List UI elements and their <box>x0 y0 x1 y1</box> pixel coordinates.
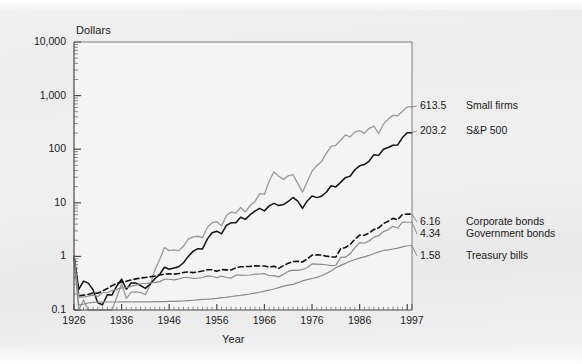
x-tick-label: 1946 <box>146 314 192 326</box>
x-tick-label: 1997 <box>389 314 435 326</box>
x-tick-label: 1936 <box>99 314 145 326</box>
plot-background <box>74 42 412 310</box>
y-tick-label: 100 <box>10 142 66 154</box>
chart-canvas <box>0 0 582 364</box>
annotation-label-government-bonds: Government bonds <box>466 227 555 239</box>
annotation-label-small-firms: Small firms <box>466 99 518 111</box>
annotation-leader-lines <box>412 106 417 256</box>
annotation-value-small-firms: 613.5 <box>420 99 460 111</box>
annotation-value-s-p-500: 203.2 <box>420 124 460 136</box>
annotation-label-corporate-bonds: Corporate bonds <box>466 215 544 227</box>
x-tick-label: 1956 <box>194 314 240 326</box>
y-tick-label: 1,000 <box>10 89 66 101</box>
annotation-value-government-bonds: 4.34 <box>420 227 460 239</box>
x-tick-label: 1976 <box>289 314 335 326</box>
x-tick-label: 1966 <box>241 314 287 326</box>
annotation-value-corporate-bonds: 6.16 <box>420 215 460 227</box>
annotation-value-treasury-bills: 1.58 <box>420 249 460 261</box>
figure-scanned-chart: Dollars Year 10,0001,0001001010.1 192619… <box>0 0 582 364</box>
y-tick-label: 10 <box>10 196 66 208</box>
y-tick-label: 10,000 <box>10 35 66 47</box>
annotation-label-s-p-500: S&P 500 <box>466 124 507 136</box>
x-tick-label: 1926 <box>51 314 97 326</box>
x-axis-title: Year <box>222 333 245 345</box>
annotation-label-treasury-bills: Treasury bills <box>466 249 528 261</box>
y-axis-title: Dollars <box>76 24 111 36</box>
x-tick-label: 1986 <box>337 314 383 326</box>
y-tick-label: 1 <box>10 249 66 261</box>
